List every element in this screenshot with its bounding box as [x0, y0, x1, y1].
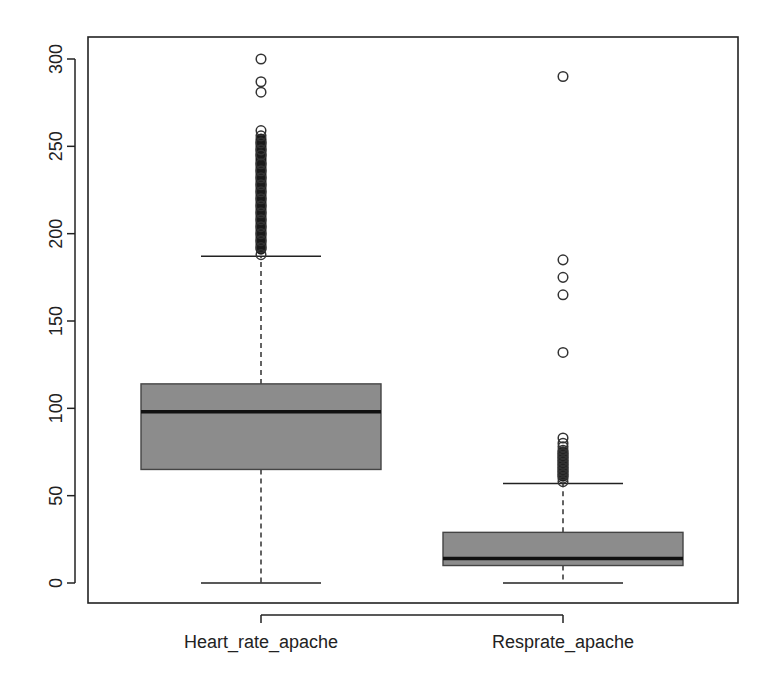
- iqr-box: [443, 532, 683, 565]
- iqr-box: [141, 384, 381, 470]
- y-tick-label: 100: [46, 393, 66, 423]
- y-tick-label: 250: [46, 131, 66, 161]
- y-tick-label: 150: [46, 306, 66, 336]
- y-tick-label: 0: [46, 578, 66, 588]
- x-tick-label: Heart_rate_apache: [184, 632, 338, 653]
- y-tick-label: 50: [46, 486, 66, 506]
- y-tick-label: 200: [46, 219, 66, 249]
- boxplot-chart: 050100150200250300 Heart_rate_apacheResp…: [0, 0, 775, 682]
- background: [0, 0, 775, 682]
- y-tick-label: 300: [46, 44, 66, 74]
- x-tick-label: Resprate_apache: [492, 632, 634, 653]
